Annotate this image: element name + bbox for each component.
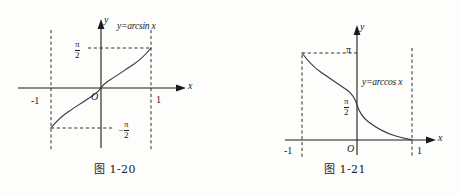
fraction-denominator: 2 [344, 108, 349, 117]
x-axis-label: x [438, 133, 442, 143]
figure-arccos: y x y=arccos x O -1 1 π π 2 图 1-21 [230, 0, 460, 195]
y-axis-label: y [360, 22, 364, 32]
x-axis-label: x [188, 81, 192, 91]
x-tick-pos1: 1 [417, 145, 422, 156]
origin-label: O [347, 144, 354, 154]
y-tick-neg-half-pi-fraction: π 2 [124, 120, 129, 140]
fraction-numerator: π [75, 40, 80, 49]
origin-label: O [91, 92, 98, 102]
y-tick-half-pi: π 2 [74, 40, 80, 60]
arcsin-plot [0, 0, 230, 160]
y-tick-half-pi-fraction: π 2 [75, 40, 80, 60]
y-tick-half-pi: π 2 [344, 97, 349, 117]
curve-equation-label: y=arccos x [362, 78, 402, 88]
y-axis [98, 19, 105, 148]
y-tick-neg-half-pi-sign: − [118, 125, 123, 135]
fraction-numerator: π [124, 120, 129, 129]
curve-equation-label: y=arcsin x [117, 22, 156, 32]
fraction-numerator: π [344, 97, 349, 106]
y-axis [354, 25, 361, 155]
figure-arcsin: y x y=arcsin x O -1 1 π 2 − π 2 图 1-20 [0, 0, 230, 195]
x-axis [285, 137, 436, 144]
y-tick-half-pi-fraction: π 2 [344, 97, 349, 117]
x-tick-neg1: -1 [284, 145, 292, 156]
y-axis-label: y [104, 15, 108, 25]
figure-caption-1-20: 图 1-20 [0, 160, 230, 176]
y-tick-pi: π [346, 45, 351, 55]
x-axis [18, 85, 186, 92]
x-tick-neg1: -1 [31, 95, 39, 106]
arccos-plot [230, 0, 460, 160]
x-tick-pos1: 1 [156, 94, 161, 105]
y-tick-neg-half-pi: − π 2 [118, 120, 129, 140]
fraction-denominator: 2 [75, 51, 80, 60]
figure-caption-1-21: 图 1-21 [230, 160, 460, 176]
fraction-denominator: 2 [124, 131, 129, 140]
